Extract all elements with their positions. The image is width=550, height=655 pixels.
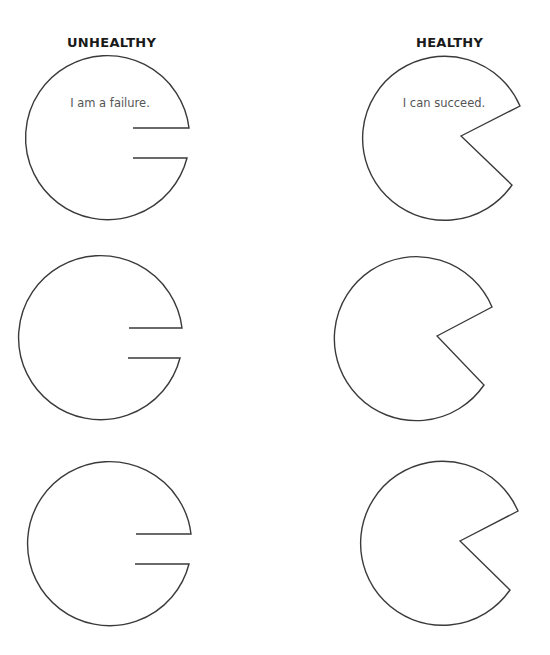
healthy-circle-3	[361, 461, 518, 625]
healthy-caption: I can succeed.	[403, 96, 485, 110]
unhealthy-circle-1: I am a failure.	[26, 56, 189, 220]
healthy-circle-1: I can succeed.	[363, 56, 520, 220]
pie-diagrams: I am a failure. I can succeed.	[0, 0, 550, 655]
unhealthy-circle-2	[19, 256, 182, 420]
healthy-circle-2	[334, 257, 492, 421]
unhealthy-caption: I am a failure.	[70, 96, 150, 110]
unhealthy-circle-3	[28, 462, 191, 626]
